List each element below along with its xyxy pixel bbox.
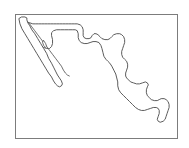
map-frame-border [15, 14, 178, 139]
figure-root [0, 0, 189, 148]
mexico-outline-map [16, 15, 177, 138]
mexico-mainland-outline [22, 20, 169, 122]
